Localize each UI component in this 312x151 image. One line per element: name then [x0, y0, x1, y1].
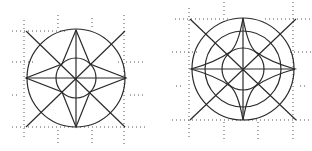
- left-shapes: [26, 29, 126, 127]
- right-compass-star: [172, 2, 312, 140]
- right-shapes: [190, 18, 296, 120]
- left-compass-star: [12, 15, 145, 145]
- geometry-drawing: [0, 0, 312, 151]
- diagram-canvas: Two geometric compass-star constructions…: [0, 0, 312, 151]
